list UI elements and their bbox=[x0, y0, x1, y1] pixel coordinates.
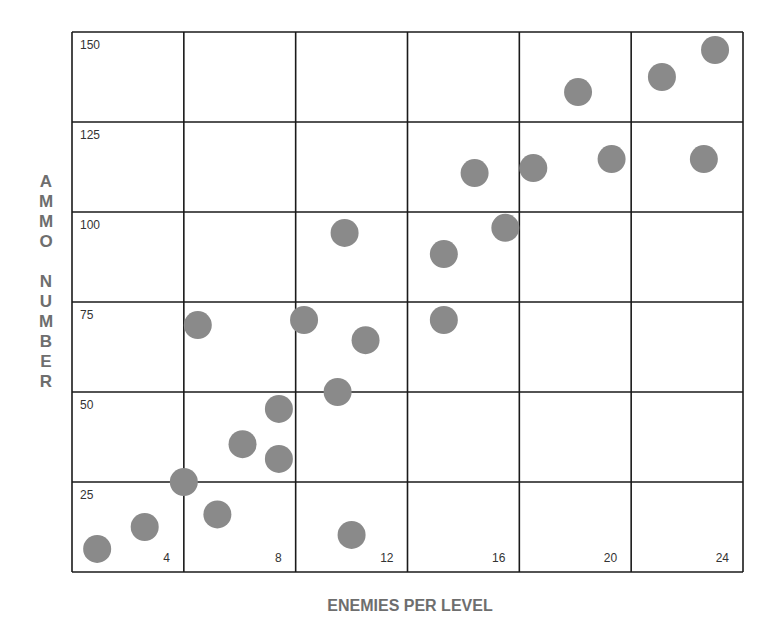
data-point bbox=[461, 159, 489, 187]
y-axis-label: AMMONUMBER bbox=[36, 172, 56, 392]
y-tick-label: 150 bbox=[80, 38, 100, 52]
data-point bbox=[564, 78, 592, 106]
data-points bbox=[83, 36, 729, 563]
data-point bbox=[331, 219, 359, 247]
data-point bbox=[324, 378, 352, 406]
data-point bbox=[265, 395, 293, 423]
y-axis-label-letter: U bbox=[40, 292, 52, 312]
y-axis-label-letter: M bbox=[39, 212, 53, 232]
y-axis-label-letter: A bbox=[40, 172, 52, 192]
y-tick-labels: 255075100125150 bbox=[80, 38, 100, 502]
y-tick-label: 125 bbox=[80, 128, 100, 142]
y-axis-label-letter: O bbox=[39, 232, 52, 252]
data-point bbox=[701, 36, 729, 64]
y-tick-label: 100 bbox=[80, 218, 100, 232]
data-point bbox=[690, 145, 718, 173]
data-point bbox=[131, 513, 159, 541]
x-tick-label: 24 bbox=[716, 551, 730, 565]
x-tick-label: 12 bbox=[380, 551, 394, 565]
y-tick-label: 50 bbox=[80, 398, 94, 412]
data-point bbox=[83, 535, 111, 563]
data-point bbox=[229, 430, 257, 458]
data-point bbox=[430, 240, 458, 268]
data-point bbox=[170, 468, 198, 496]
y-axis-label-letter: E bbox=[40, 352, 51, 372]
data-point bbox=[519, 154, 547, 182]
y-axis-label-letter: R bbox=[40, 372, 52, 392]
data-point bbox=[203, 500, 231, 528]
y-tick-label: 75 bbox=[80, 308, 94, 322]
data-point bbox=[491, 214, 519, 242]
data-point bbox=[265, 445, 293, 473]
y-axis-label-letter: B bbox=[40, 332, 52, 352]
data-point bbox=[430, 306, 458, 334]
y-axis-label-letter: M bbox=[39, 312, 53, 332]
scatter-chart: 255075100125150 4812162024 bbox=[0, 0, 780, 619]
data-point bbox=[598, 145, 626, 173]
data-point bbox=[184, 311, 212, 339]
x-tick-labels: 4812162024 bbox=[163, 551, 729, 565]
data-point bbox=[290, 306, 318, 334]
data-point bbox=[648, 63, 676, 91]
x-tick-label: 8 bbox=[275, 551, 282, 565]
data-point bbox=[352, 326, 380, 354]
grid bbox=[72, 32, 743, 572]
x-tick-label: 20 bbox=[604, 551, 618, 565]
y-axis-label-letter: M bbox=[39, 192, 53, 212]
data-point bbox=[338, 521, 366, 549]
y-axis-label-letter: N bbox=[40, 272, 52, 292]
x-tick-label: 4 bbox=[163, 551, 170, 565]
x-axis-label: ENEMIES PER LEVEL bbox=[300, 597, 520, 615]
x-tick-label: 16 bbox=[492, 551, 506, 565]
y-tick-label: 25 bbox=[80, 488, 94, 502]
